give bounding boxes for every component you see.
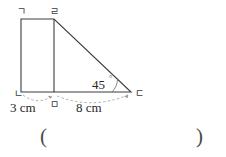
paren-close: ) [196, 126, 203, 147]
vertex-label-rieul: ㄹ [50, 6, 59, 17]
answer-blank[interactable]: ( ) [0, 124, 226, 157]
degree-symbol: ° [109, 74, 112, 83]
vertex-label-giyeok: ㄱ [17, 6, 26, 17]
measure-label-8cm: 8 cm [76, 100, 102, 115]
measure-label-3cm: 3 cm [10, 100, 36, 115]
vertex-label-digeut: ㄷ [135, 88, 144, 99]
paren-open: ( [40, 126, 47, 147]
angle-value-label: 45 [92, 77, 105, 92]
vertex-label-mieum: ㅁ [50, 99, 59, 110]
vertex-label-nieun: ㄴ [14, 88, 23, 99]
geometry-figure: ㄱ ㄹ ㄴ ㅁ ㄷ 45 ° 3 cm 8 cm [0, 0, 226, 124]
geometry-figure-container: ㄱ ㄹ ㄴ ㅁ ㄷ 45 ° 3 cm 8 cm [0, 0, 226, 124]
trapezoid-outline [21, 19, 131, 92]
angle-arc-45 [112, 79, 118, 92]
